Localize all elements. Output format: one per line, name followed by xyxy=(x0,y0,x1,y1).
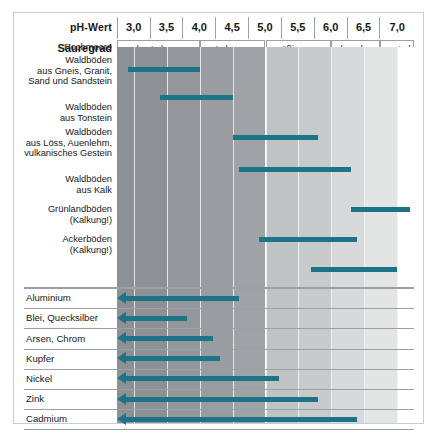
acidity-band xyxy=(331,47,364,423)
metal-label: Zink xyxy=(26,393,44,404)
metal-label: Nickel xyxy=(26,373,52,384)
gridline xyxy=(364,47,365,423)
metal-arrow-head-icon xyxy=(117,312,126,324)
metal-row-rule xyxy=(24,328,414,329)
gridline xyxy=(331,47,332,423)
soil-label: Grünlandböden (Kalkung!) xyxy=(18,204,112,225)
metal-arrow-shaft xyxy=(126,296,239,301)
plot-area xyxy=(117,47,414,423)
soil-range-bar xyxy=(311,267,396,272)
soil-range-bar xyxy=(259,237,358,242)
gridline xyxy=(167,47,168,423)
metal-arrow-head-icon xyxy=(117,352,126,364)
chart-frame: pH-Wert 3,03,54,04,55,05,56,06,57,0 Säur… xyxy=(13,12,424,424)
metal-arrow-head-icon xyxy=(117,372,126,384)
metal-row-rule xyxy=(24,288,414,289)
metal-arrow-head-icon xyxy=(117,332,126,344)
soil-range-bar xyxy=(239,167,351,172)
metal-label: Arsen, Chrom xyxy=(26,333,85,344)
soil-label: Hochmoore xyxy=(18,42,112,53)
metal-row-rule xyxy=(24,389,414,390)
ph-tick-3-0: 3,0 xyxy=(117,17,151,39)
metal-arrow-shaft xyxy=(126,336,213,341)
metal-row-rule xyxy=(24,308,414,309)
ph-tick-5-5: 5,5 xyxy=(282,17,315,39)
gridline xyxy=(266,47,267,423)
acidity-band xyxy=(298,47,331,423)
soil-range-bar xyxy=(160,95,232,100)
ph-tick-4-0: 4,0 xyxy=(183,17,216,39)
ph-tick-6-5: 6,5 xyxy=(348,17,381,39)
metal-label: Aluminium xyxy=(26,292,71,303)
soil-label: Waldböden aus Gneis, Granit, Sand und Sa… xyxy=(18,55,112,87)
metal-label: Blei, Quecksilber xyxy=(26,312,98,323)
metal-label: Cadmium xyxy=(26,413,67,424)
gridline xyxy=(200,47,201,423)
soil-label: Waldböden aus Tonstein xyxy=(18,102,112,123)
metal-arrow-head-icon xyxy=(117,292,126,304)
ph-tick-6-0: 6,0 xyxy=(315,17,348,39)
soil-range-bar xyxy=(128,67,200,72)
ph-axis-title: pH-Wert xyxy=(70,21,112,33)
acidity-band xyxy=(167,47,200,423)
acidity-band xyxy=(397,47,414,423)
acidity-band xyxy=(233,47,266,423)
acidity-band xyxy=(364,47,397,423)
soil-range-bar xyxy=(233,135,318,140)
soil-label: Waldböden aus Löss, Auenlehm, vulkanisch… xyxy=(18,127,112,159)
ph-tick-4-5: 4,5 xyxy=(216,17,249,39)
gridline xyxy=(233,47,234,423)
acidity-band xyxy=(266,47,299,423)
metal-row-rule xyxy=(24,409,414,410)
acidity-band xyxy=(200,47,233,423)
ph-tick-3-5: 3,5 xyxy=(151,17,184,39)
ph-tick-7-0: 7,0 xyxy=(380,17,414,39)
metal-row-rule xyxy=(24,429,414,430)
metal-row-rule xyxy=(24,369,414,370)
metal-arrow-shaft xyxy=(126,356,220,361)
soil-range-bar xyxy=(351,207,410,212)
metal-arrow-head-icon xyxy=(117,393,126,405)
metal-label: Kupfer xyxy=(26,353,54,364)
metal-arrow-shaft xyxy=(126,397,318,402)
gridline xyxy=(134,47,135,423)
acidity-band xyxy=(117,47,167,423)
ph-tick-5-0: 5,0 xyxy=(249,17,282,39)
soil-label: Ackerböden (Kalkung!) xyxy=(18,234,112,255)
gridline xyxy=(298,47,299,423)
metal-arrow-shaft xyxy=(126,376,279,381)
soil-label: Waldböden aus Kalk xyxy=(18,174,112,195)
metal-arrow-head-icon xyxy=(117,413,126,425)
gridline xyxy=(397,47,398,423)
metal-arrow-shaft xyxy=(126,316,187,321)
metal-row-rule xyxy=(24,349,414,350)
metal-arrow-shaft xyxy=(126,417,357,422)
